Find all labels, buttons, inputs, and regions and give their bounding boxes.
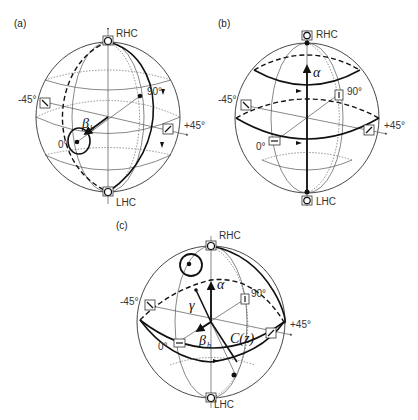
alpha-label: α [313,65,321,80]
zero-label: 0° [158,341,168,352]
ninety-label: 90° [147,86,162,97]
lhc-label: LHC [214,399,234,410]
zero-label: 0° [256,141,266,152]
minus45-label: -45° [120,296,138,307]
minus45-label: -45° [18,94,36,105]
beta-vector [197,322,211,331]
rhc-label: RHC [316,29,338,40]
ninety-label: 90° [347,86,362,97]
lhc-label: LHC [116,197,136,208]
plus45-label: +45° [384,120,405,131]
panel-label-a: (a) [14,18,26,29]
lhc-label: LHC [316,196,336,207]
lhc-icon [105,189,112,196]
beta-label: β [198,333,206,348]
plus45-label: +45° [290,319,311,330]
lhc-icon [304,197,310,203]
beta-label: β [81,116,89,131]
c-z-label: C(z) [230,331,254,347]
gamma-vector [196,290,211,322]
minus45-label: -45° [218,94,236,105]
alpha-label: α [217,277,225,292]
ninety-label: 90° [251,288,266,299]
panel-label-b: (b) [218,18,230,29]
gamma-label: γ [189,298,195,313]
rhc-icon [208,243,215,250]
rhc-icon [304,32,310,38]
plus45-label: +45° [184,120,205,131]
panel-label-c: (c) [116,220,128,231]
rhc-label: RHC [219,230,241,241]
panel-c: (c) RHC LHC [116,220,311,410]
panel-b: (b) RHC LHC -45° +45° [218,18,405,207]
svg-text:b: b [207,341,211,350]
poincare-sphere-figure: (a) [0,0,418,420]
rhc-icon [105,38,112,45]
rhc-label: RHC [116,28,138,39]
zero-label: 0° [58,139,68,150]
svg-text:b: b [90,124,94,133]
panel-a: (a) [14,18,205,208]
